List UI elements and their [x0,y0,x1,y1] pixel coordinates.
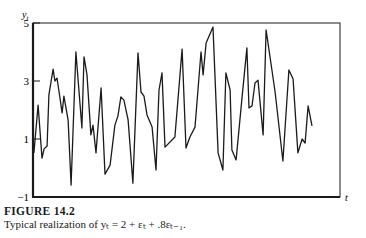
y-tick-label: 3 [24,75,30,87]
x-axis-label: t [345,192,348,203]
y-tick-label: −1 [17,191,29,203]
series-line [34,27,312,185]
figure-caption: Typical realization of yₜ = 2 + εₜ + .8ε… [4,218,186,231]
figure-label: FIGURE 14.2 [4,205,75,217]
line-chart: −1135 yt t [0,0,366,238]
plot-frame [33,23,340,197]
y-ticks: −1135 [17,17,40,203]
y-tick-label: 1 [24,133,30,145]
